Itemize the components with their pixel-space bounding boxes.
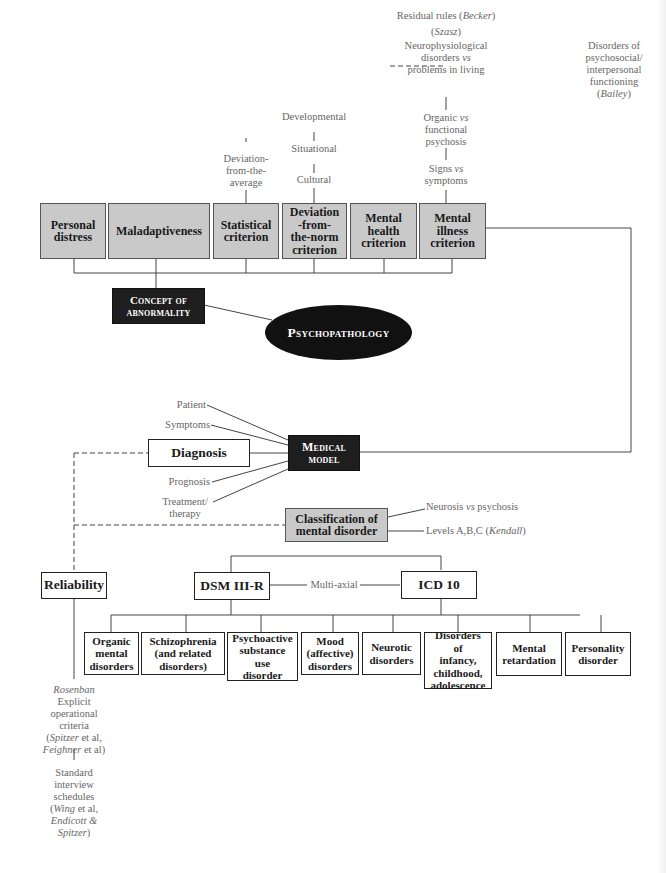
disorder-organic-mental: Organicmentaldisorders: [84, 632, 139, 675]
disorder-schizophrenia: Schizophrenia(and relateddisorders): [141, 632, 225, 675]
symptoms-label: Symptoms: [150, 419, 210, 431]
neurophysiological-label: Neurophysiological disorders vs problems…: [390, 40, 502, 76]
neurosis-psychosis-label: Neurosis vs psychosis: [426, 501, 518, 513]
criterion-personal-distress: Personaldistress: [40, 203, 106, 259]
diagram-canvas: Residual rules (Becker) (Szasz) Neurophy…: [0, 0, 666, 873]
signs-symptoms-label: Signs vs symptoms: [406, 163, 486, 187]
szasz-label: (Szasz): [370, 26, 522, 38]
disorder-neurotic: Neuroticdisorders: [362, 632, 421, 675]
deviation-average-label: Deviation- from-the- average: [206, 153, 286, 189]
bailey-label: Disorders of psychosocial/ interpersonal…: [558, 40, 666, 100]
disorder-personality: Personalitydisorder: [565, 632, 631, 676]
residual-rules-label: Residual rules (Becker): [370, 10, 522, 22]
multi-axial-label: Multi-axial: [306, 579, 362, 591]
reliability-node: Reliability: [41, 572, 107, 599]
criterion-mental-health: Mentalhealthcriterion: [350, 203, 417, 259]
organic-functional-label: Organic vs functional psychosis: [406, 112, 486, 148]
levels-kendall-label: Levels A,B,C (Kendall): [426, 525, 526, 537]
criterion-deviation-from-norm: Deviation-from-the-normcriterion: [282, 203, 347, 259]
diagnosis-node: Diagnosis: [148, 439, 250, 467]
patient-label: Patient: [160, 399, 206, 411]
medical-model-node: Medicalmodel: [288, 435, 360, 471]
dsm-iii-r-node: DSM III-R: [194, 572, 270, 600]
standard-interview-schedules-label: Standard interview schedules (Wing et al…: [24, 767, 124, 839]
disorder-infancy-childhood: Disordersofinfancy,childhood,adolescence: [424, 632, 492, 689]
prognosis-label: Prognosis: [150, 476, 210, 488]
disorder-psychoactive-substance: Psychoactivesubstanceusedisorder: [227, 632, 298, 681]
psychopathology-node: Psychopathology: [265, 305, 412, 360]
icd-10-node: ICD 10: [401, 571, 477, 599]
developmental-label: Developmental: [264, 111, 364, 123]
classification-node: Classification ofmental disorder: [285, 508, 388, 542]
criterion-mental-illness: Mentalillnesscriterion: [419, 203, 486, 259]
concept-of-abnormality-node: Concept ofabnormality: [112, 288, 205, 324]
disorder-mental-retardation: Mentalretardation: [496, 632, 562, 676]
disorder-mood-affective: Mood(affective)disorders: [301, 632, 359, 675]
treatment-therapy-label: Treatment/ therapy: [155, 496, 215, 520]
page-edge-shadow: [656, 0, 666, 873]
criterion-statistical: Statisticalcriterion: [213, 203, 279, 259]
rosenban-explicit-criteria-label: Rosenban Explicit operational criteria (…: [24, 684, 124, 756]
criterion-maladaptiveness: Maladaptiveness: [108, 203, 210, 259]
